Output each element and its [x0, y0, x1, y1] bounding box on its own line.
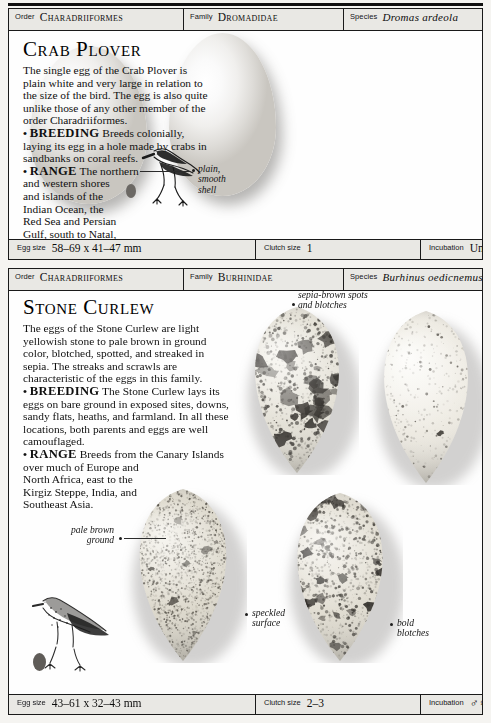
book-page: Order Charadriiformes Family Dromadidae …: [0, 0, 491, 723]
page-top-rule: [8, 3, 483, 6]
order-value: Charadriiformes: [40, 271, 123, 283]
incubation-label: Incubation: [429, 243, 464, 252]
family-value: Dromadidae: [218, 11, 278, 23]
annotation-plain-smooth-shell: plain, smooth shell: [198, 164, 226, 195]
bullet-glyph: •: [23, 165, 30, 177]
annotation-pale-brown-ground: pale brown ground: [71, 525, 114, 546]
bullet-glyph: •: [23, 385, 30, 397]
incubation-value: Unknown: [470, 242, 482, 254]
egg-size-label: Egg size: [17, 698, 46, 707]
egg-size-value: 43–61 x 32–43 mm: [52, 697, 142, 709]
clutch-size-cell: Clutch size 2–3: [256, 695, 421, 715]
keyword-range: RANGE: [30, 164, 77, 178]
egg-size-value: 58–69 x 41–47 mm: [52, 242, 142, 254]
leader-line-plain-smooth-shell: [140, 171, 190, 172]
egg-size-label: Egg size: [17, 243, 46, 252]
taxonomy-species-cell: Species Burhinus oedicnemus: [344, 269, 482, 290]
pebble-marker: [33, 653, 46, 671]
description-stone-curlew: The eggs of the Stone Curlew are light y…: [23, 322, 229, 511]
taxonomy-order-cell: Order Charadriiformes: [9, 269, 184, 290]
range-text-cont: and western shoresand islands of theIndi…: [23, 177, 116, 239]
egg-stone-curlew-top-left: [235, 305, 359, 475]
crab-plover-bird-illustration: [137, 141, 203, 213]
annotation-speckled-surface: speckled surface: [252, 608, 285, 629]
egg-stone-curlew-bottom-right: [277, 491, 403, 663]
page-title-stone-curlew: Stone Curlew: [23, 295, 154, 320]
taxonomy-family-cell: Family Burhinidae: [184, 269, 344, 290]
range-text: The northern: [79, 165, 138, 177]
range-text-cont: North Africa, east to theKirgiz Steppe, …: [23, 473, 137, 510]
species-value: Dromas ardeola: [382, 11, 458, 23]
leader-dot-sepia-brown-spots: [292, 303, 295, 306]
egg-size-cell: Egg size 58–69 x 41–47 mm: [9, 240, 256, 260]
clutch-size-label: Clutch size: [264, 243, 301, 252]
measurements-row-stone-curlew: Egg size 43–61 x 32–43 mm Clutch size 2–…: [9, 694, 482, 715]
pebble-marker: [126, 184, 136, 198]
leader-dot-speckled-surface: [245, 613, 248, 616]
species-card-stone-curlew: Order Charadriiformes Family Burhinidae …: [8, 268, 483, 715]
incubation-cell: Incubation ♂♀ 25–27 days: [421, 695, 482, 715]
bullet-glyph: •: [23, 448, 30, 460]
keyword-range: RANGE: [30, 447, 77, 461]
measurements-row-crab-plover: Egg size 58–69 x 41–47 mm Clutch size 1 …: [9, 239, 482, 260]
leader-dot-pale-brown-ground: [119, 537, 122, 540]
leader-dot-plain-smooth-shell: [192, 169, 195, 172]
species-label: Species: [350, 272, 377, 281]
entry-body-stone-curlew: Stone Curlew The eggs of the Stone Curle…: [9, 291, 482, 694]
description-paragraph-intro: The eggs of the Stone Curlew are light y…: [23, 322, 229, 385]
leader-line-pale-brown-ground: [124, 538, 166, 539]
leader-dot-bold-blotches: [390, 623, 393, 626]
description-paragraph-breeding: • BREEDING The Stone Curlew lays its egg…: [23, 385, 229, 448]
bullet-glyph: •: [23, 127, 30, 139]
description-paragraph-range: • RANGE Breeds from the Canary Islands o…: [23, 448, 229, 511]
taxonomy-row: Order Charadriiformes Family Dromadidae …: [9, 9, 482, 31]
annotation-sepia-brown-spots: sepia-brown spots and blotches: [298, 291, 368, 311]
keyword-breeding: BREEDING: [30, 126, 100, 140]
entry-body-crab-plover: Crab Plover The single egg of the Crab P…: [9, 31, 482, 239]
incubation-cell: Incubation Unknown: [421, 240, 482, 260]
family-label: Family: [190, 272, 213, 281]
clutch-size-value: 2–3: [307, 697, 324, 709]
clutch-size-label: Clutch size: [264, 698, 301, 707]
species-label: Species: [350, 12, 377, 21]
egg-size-cell: Egg size 43–61 x 32–43 mm: [9, 695, 256, 715]
taxonomy-species-cell: Species Dromas ardeola: [344, 9, 482, 30]
annotation-bold-blotches: bold blotches: [397, 618, 429, 639]
incubation-label: Incubation: [429, 698, 464, 707]
egg-stone-curlew-bottom-left: [119, 487, 247, 663]
family-label: Family: [190, 12, 213, 21]
family-value: Burhinidae: [218, 271, 273, 283]
species-value: Burhinus oedicnemus: [382, 271, 482, 283]
egg-stone-curlew-top-right: [364, 309, 482, 485]
taxonomy-family-cell: Family Dromadidae: [184, 9, 344, 30]
order-value: Charadriiformes: [40, 11, 123, 23]
taxonomy-order-cell: Order Charadriiformes: [9, 9, 184, 30]
order-label: Order: [15, 12, 35, 21]
description-paragraph-intro: The single egg of the Crab Plover is pla…: [23, 64, 209, 127]
incubation-value: ♂♀ 25–27 days: [470, 697, 482, 709]
taxonomy-row: Order Charadriiformes Family Burhinidae …: [9, 269, 482, 291]
clutch-size-cell: Clutch size 1: [256, 240, 421, 260]
keyword-breeding: BREEDING: [30, 384, 100, 398]
page-title-crab-plover: Crab Plover: [23, 37, 141, 62]
species-card-crab-plover: Order Charadriiformes Family Dromadidae …: [8, 8, 483, 260]
clutch-size-value: 1: [307, 242, 313, 254]
order-label: Order: [15, 272, 35, 281]
